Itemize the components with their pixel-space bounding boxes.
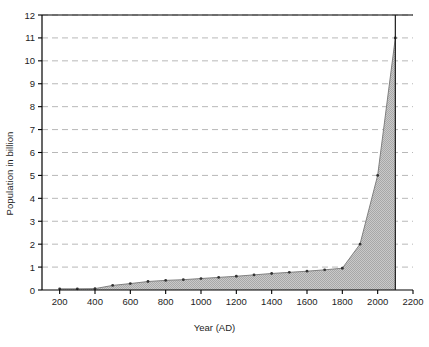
svg-text:1000: 1000 <box>190 296 211 307</box>
svg-text:1600: 1600 <box>296 296 317 307</box>
svg-text:9: 9 <box>30 78 35 89</box>
svg-text:7: 7 <box>30 124 35 135</box>
svg-text:2: 2 <box>30 239 35 250</box>
population-growth-chart: Population in billion 0123456789101112 2… <box>0 0 429 347</box>
x-axis-label: Year (AD) <box>0 322 429 333</box>
svg-text:800: 800 <box>158 296 174 307</box>
svg-text:1800: 1800 <box>332 296 353 307</box>
svg-text:11: 11 <box>25 32 35 43</box>
svg-text:1400: 1400 <box>261 296 282 307</box>
svg-text:12: 12 <box>24 10 35 21</box>
chart-plot-area: 0123456789101112 20040060080010001200140… <box>0 0 429 347</box>
svg-text:0: 0 <box>30 285 35 296</box>
x-axis-tick-labels: 2004006008001000120014001600180020002200 <box>52 296 424 307</box>
svg-text:3: 3 <box>30 216 35 227</box>
gridlines <box>42 15 413 267</box>
y-axis-tick-labels: 0123456789101112 <box>24 10 35 296</box>
svg-text:4: 4 <box>30 193 35 204</box>
svg-text:5: 5 <box>30 170 35 181</box>
svg-text:200: 200 <box>52 296 68 307</box>
data-markers <box>58 37 396 291</box>
svg-text:1: 1 <box>30 262 35 273</box>
svg-text:8: 8 <box>30 101 35 112</box>
svg-text:2200: 2200 <box>402 296 423 307</box>
svg-text:2000: 2000 <box>367 296 388 307</box>
data-line <box>60 38 396 289</box>
area-fill <box>60 38 396 290</box>
svg-text:1200: 1200 <box>226 296 247 307</box>
svg-text:10: 10 <box>24 55 35 66</box>
svg-text:600: 600 <box>122 296 138 307</box>
svg-text:400: 400 <box>87 296 103 307</box>
svg-text:6: 6 <box>30 147 35 158</box>
